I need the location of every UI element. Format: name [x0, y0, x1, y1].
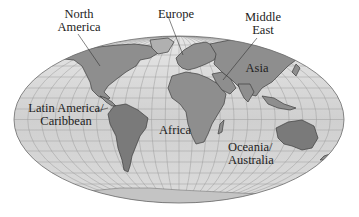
label-middle-east: Middle East: [240, 11, 286, 37]
label-line: Europe: [151, 8, 201, 21]
label-line: East: [240, 24, 286, 37]
label-line: Asia: [240, 62, 274, 75]
label-oceania: Oceania/ Australia: [228, 141, 288, 167]
label-europe: Europe: [151, 8, 201, 21]
label-line: America: [53, 21, 105, 34]
label-asia: Asia: [240, 62, 274, 75]
label-line: Caribbean: [28, 115, 104, 128]
label-north-america: North America: [53, 8, 105, 34]
land-antarctica: [30, 188, 330, 210]
label-line: Africa: [156, 124, 194, 137]
label-line: Australia: [228, 154, 288, 167]
label-africa: Africa: [156, 124, 194, 137]
label-latin-america: Latin America/ Caribbean: [28, 102, 104, 128]
